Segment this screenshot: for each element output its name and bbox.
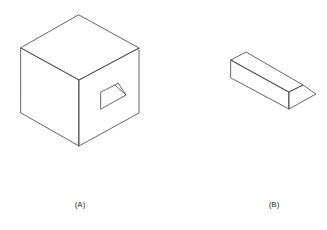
- cube-figure-a: [21, 15, 139, 146]
- cube-top-face: [21, 15, 139, 80]
- cube-left-face: [21, 48, 79, 146]
- bar-figure-b: [231, 52, 316, 109]
- bar-front-face: [231, 60, 289, 109]
- bar-chamfer-face: [289, 85, 316, 109]
- bar-top-face: [231, 52, 303, 92]
- diagram-canvas: [0, 0, 327, 230]
- cube-right-face: [79, 48, 139, 146]
- cube-window-cutout: [101, 83, 126, 109]
- figure-a-label: (A): [75, 200, 86, 209]
- figure-b-label: (B): [269, 200, 280, 209]
